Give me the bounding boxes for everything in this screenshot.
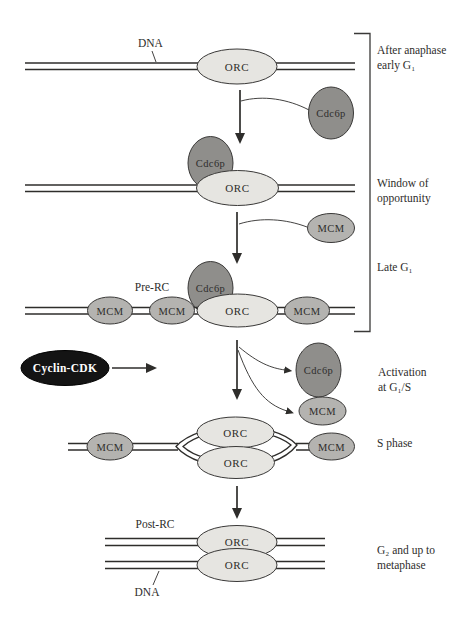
mcm-label-sphase-left: MCM <box>97 442 124 453</box>
mcm-delivery-curve <box>239 220 307 227</box>
mcm-label-prerc-2: MCM <box>159 306 186 317</box>
orc-label-prerc: ORC <box>225 305 249 317</box>
diagram-canvas: After anaphase early G₁ Window of opport… <box>0 0 460 619</box>
mcm-label-prerc-3: MCM <box>294 306 321 317</box>
dna-pointer-line-top <box>152 51 156 62</box>
stage-label-window-line1: Window of <box>377 177 429 189</box>
stage-label-window-line2: opportunity <box>377 192 431 205</box>
orc-label-postrc-top: ORC <box>225 536 249 548</box>
mcm-label-released: MCM <box>309 406 336 417</box>
cyclin-cdk-label: Cyclin-CDK <box>33 362 97 375</box>
stage-label-g2-line1: G₂ and up to <box>377 544 435 557</box>
dna-pointer-line-bottom <box>153 571 159 585</box>
orc-label-sphase-bottom: ORC <box>224 457 248 469</box>
stage-label-late-g1: Late G₁ <box>377 261 413 273</box>
mcm-label-prerc-1: MCM <box>97 306 124 317</box>
cdc6p-label-free: Cdc6p <box>316 108 345 119</box>
dna-label-top: DNA <box>138 37 164 49</box>
cdc6p-delivery-curve <box>241 98 309 110</box>
cdc6p-label-prerc: Cdc6p <box>196 283 225 294</box>
replication-licensing-diagram: After anaphase early G₁ Window of opport… <box>0 0 460 619</box>
stage-label-s-phase: S phase <box>377 437 412 450</box>
post-rc-label: Post-RC <box>136 518 175 530</box>
pre-rc-label: Pre-RC <box>135 281 170 293</box>
stage-label-activation-line2: at G₁/S <box>378 381 411 393</box>
g1-phase-bracket <box>354 34 370 332</box>
mcm-label-free: MCM <box>318 223 345 234</box>
cdc6p-label-row2: Cdc6p <box>196 158 225 169</box>
stage-label-activation-line1: Activation <box>378 366 427 378</box>
stage-label-after-anaphase-line1: After anaphase <box>377 44 446 57</box>
mcm-release-curve <box>238 350 287 411</box>
orc-label-row1: ORC <box>225 61 249 73</box>
cdc6p-release-curve <box>239 347 285 370</box>
stage-label-after-anaphase-line2: early G₁ <box>377 59 415 72</box>
mcm-label-sphase-right: MCM <box>318 442 345 453</box>
stage-label-g2-line2: metaphase <box>377 559 426 572</box>
orc-label-postrc-bottom: ORC <box>225 559 249 571</box>
orc-label-sphase-top: ORC <box>223 427 247 439</box>
orc-label-row2: ORC <box>225 182 249 194</box>
dna-label-bottom: DNA <box>135 586 161 598</box>
cdc6p-label-released: Cdc6p <box>304 365 333 376</box>
